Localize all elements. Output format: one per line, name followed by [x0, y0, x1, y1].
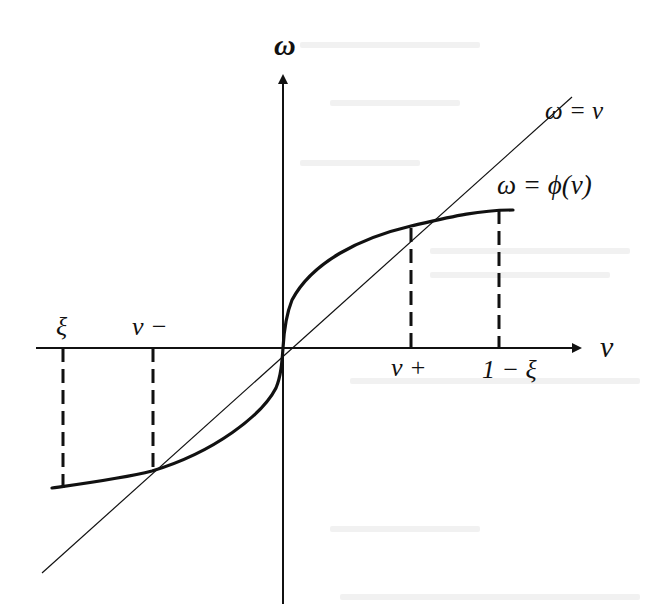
phi-curve-label: ω = ϕ(ν)	[497, 172, 592, 199]
phi-function-diagram: ω ν ω = ν ω = ϕ(ν) ξ ν − ν + 1 − ξ	[0, 0, 653, 607]
identity-line	[42, 97, 572, 573]
x-axis-label: ν	[600, 332, 613, 362]
identity-line-label: ω = ν	[545, 98, 603, 123]
one-minus-xi-tick-label: 1 − ξ	[482, 357, 537, 383]
xi-tick-label: ξ	[56, 314, 67, 340]
nu-minus-tick-label: ν −	[132, 314, 168, 340]
y-axis-label: ω	[274, 30, 296, 60]
nu-plus-tick-label: ν +	[391, 355, 427, 381]
diagram-canvas	[0, 0, 653, 607]
